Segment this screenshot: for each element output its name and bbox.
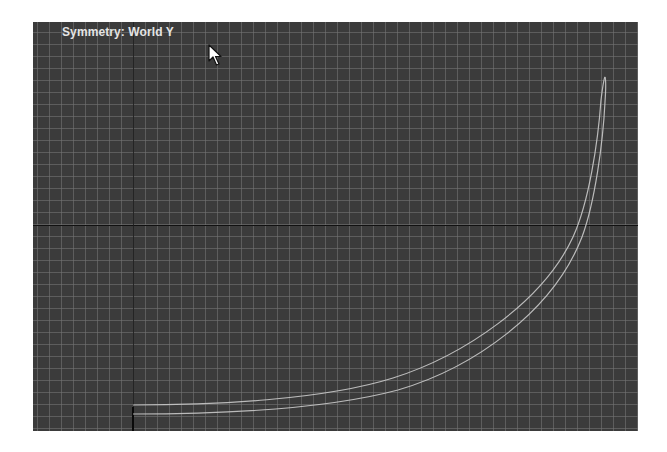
3d-viewport[interactable]: Symmetry: World Y: [33, 22, 638, 431]
symmetry-mode-label: Symmetry: World Y: [62, 25, 174, 39]
spline-curve-object[interactable]: [33, 22, 638, 431]
spline-inner-edge: [133, 77, 606, 414]
spline-outer-edge: [133, 77, 605, 405]
arrow-pointer-icon: [208, 44, 224, 68]
page: Symmetry: World Y: [0, 0, 667, 452]
